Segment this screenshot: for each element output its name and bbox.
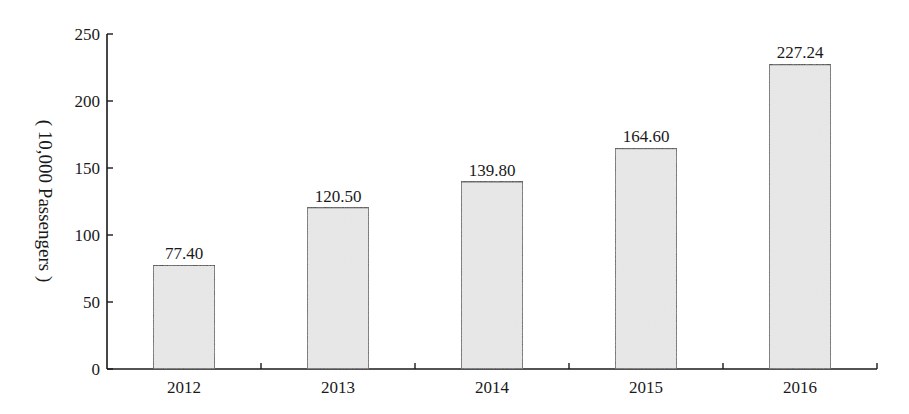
bar-chart: ( 10,000 Passengers ) 050100150200250 20… (0, 0, 909, 414)
bar-2012 (153, 265, 215, 369)
data-label: 77.40 (165, 244, 203, 263)
data-label: 139.80 (469, 161, 516, 180)
y-tick-label: 200 (75, 92, 101, 111)
x-tick-label: 2016 (783, 378, 817, 397)
y-tick-label: 50 (83, 293, 100, 312)
y-axis-title: ( 10,000 Passengers ) (34, 120, 56, 283)
bar-2013 (307, 208, 369, 369)
data-label: 227.24 (777, 43, 824, 62)
y-tick-label: 100 (75, 226, 101, 245)
y-tick-label: 0 (92, 360, 101, 379)
data-label: 164.60 (623, 127, 670, 146)
x-tick-label: 2015 (629, 378, 663, 397)
x-tick-label: 2013 (321, 378, 355, 397)
y-tick-label: 250 (75, 25, 101, 44)
bar-2014 (461, 182, 523, 369)
y-axis: 050100150200250 (75, 25, 114, 379)
bar-2016 (769, 64, 831, 369)
x-tick-label: 2012 (167, 378, 201, 397)
bars: 77.40120.50139.80164.60227.24 (153, 43, 831, 369)
y-tick-label: 150 (75, 159, 101, 178)
data-label: 120.50 (315, 187, 362, 206)
bar-2015 (615, 148, 677, 369)
x-tick-label: 2014 (475, 378, 510, 397)
